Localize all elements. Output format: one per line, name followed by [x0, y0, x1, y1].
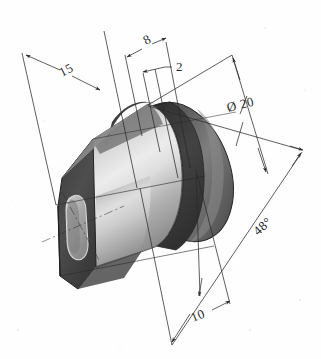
dim48-arrow-vertex-a: [290, 146, 303, 150]
dim15-arrow-a: [26, 55, 60, 70]
dim15-extension-left: [22, 53, 56, 205]
dim-label-8: 8: [140, 31, 153, 48]
dim2-leader: [143, 67, 165, 72]
dim15-arrow-b: [72, 76, 100, 90]
dim-label-10: 10: [189, 306, 208, 325]
dim20-leader-lower: [236, 122, 243, 146]
dim20-line-upper: [148, 55, 232, 105]
part-solid: [58, 88, 252, 289]
drawing-sheet: 15 8 2 Ø 20 48° 10: [0, 0, 321, 359]
dim48-arrow-vertex-b: [292, 153, 301, 166]
dim-label-2: 2: [176, 59, 183, 74]
technical-drawing-canvas: 15 8 2 Ø 20 48° 10: [0, 0, 321, 359]
dim-label-48-degrees: 48°: [250, 214, 275, 238]
dim10-arrow-b: [212, 301, 230, 310]
dim20-arrow-top: [233, 58, 240, 80]
dim8-arrow-b: [152, 38, 166, 44]
dim8-arrow-a: [127, 49, 142, 57]
dim10-arrow-a: [172, 314, 190, 342]
dim-label-diameter-20: Ø 20: [225, 94, 255, 115]
dim20-arrow-bottom: [258, 148, 266, 172]
